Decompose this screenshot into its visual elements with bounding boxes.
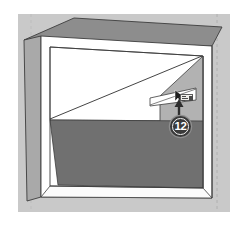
box-left-face (24, 36, 41, 201)
step-number-badge[interactable]: 12 (170, 116, 191, 137)
badge-number-label: 12 (170, 116, 191, 137)
scene-illustration (0, 0, 247, 226)
screenshot-canvas: 12 (0, 0, 247, 226)
tooltip-chip-body (180, 94, 193, 101)
measurement-chip-icon (169, 90, 195, 102)
